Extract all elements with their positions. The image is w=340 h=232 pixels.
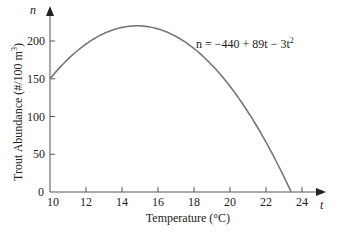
x-tick-label: 14 — [116, 195, 128, 209]
x-tick-label: 10 — [47, 195, 59, 209]
equation-text: n = −440 + 89t − 3t — [196, 37, 290, 51]
y-axis-arrow-icon — [46, 6, 54, 16]
x-tick-label: 16 — [152, 195, 164, 209]
x-ticks — [86, 187, 302, 192]
x-tick-label: 20 — [224, 195, 236, 209]
x-axis-variable: t — [320, 198, 324, 212]
x-tick-label: 18 — [188, 195, 200, 209]
x-axis-arrow-icon — [316, 188, 326, 196]
trout-abundance-chart: 050100150200 1012141618202224 n t n = −4… — [0, 0, 340, 232]
x-axis-title: Temperature (°C) — [146, 211, 230, 225]
y-tick-labels: 050100150200 — [27, 34, 45, 199]
x-tick-label: 24 — [296, 195, 308, 209]
y-axis-title-close: ) — [11, 43, 25, 47]
x-tick-label: 12 — [80, 195, 92, 209]
y-axis-title-text: Trout Abundance (#/100 m — [11, 50, 25, 181]
y-tick-label: 150 — [27, 72, 45, 86]
y-tick-label: 0 — [38, 185, 44, 199]
equation-annotation: n = −440 + 89t − 3t2 — [196, 36, 294, 51]
y-ticks — [50, 41, 55, 154]
y-tick-label: 200 — [27, 34, 45, 48]
y-axis-variable: n — [30, 3, 36, 17]
y-tick-label: 100 — [27, 110, 45, 124]
x-tick-label: 22 — [260, 195, 272, 209]
y-tick-label: 50 — [33, 147, 45, 161]
y-axis-title: Trout Abundance (#/100 m3) — [10, 43, 25, 181]
equation-exponent: 2 — [290, 36, 294, 45]
x-tick-labels: 1012141618202224 — [47, 195, 308, 209]
